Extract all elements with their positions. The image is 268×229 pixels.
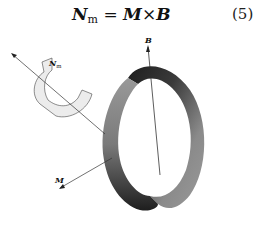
ring-inner-band [103,78,158,211]
field-axis [148,47,160,175]
field-label: B [144,35,152,45]
field-arrowhead [146,45,150,52]
moment-axis [60,158,112,188]
ring-outer-band [128,66,204,208]
moment-label: M [54,175,65,185]
torque-label: Nm [48,58,62,69]
ring-torque-figure: B Nm M [0,0,268,229]
torque-arrow-icon [34,58,92,117]
